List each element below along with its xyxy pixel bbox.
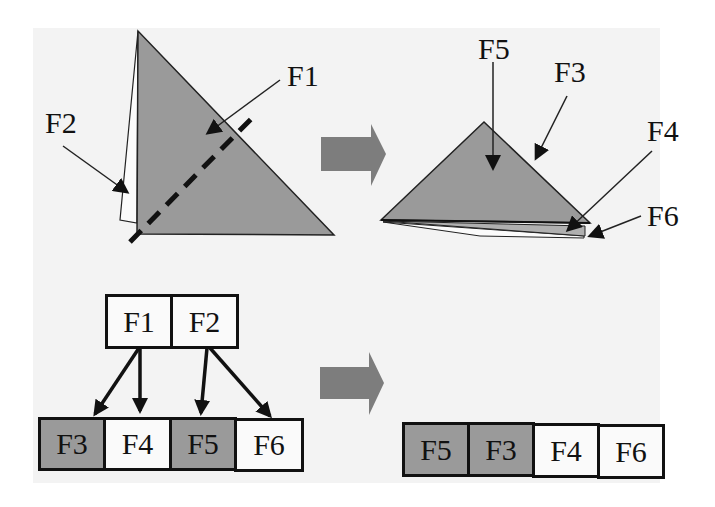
label-f2: F2 [45,108,77,138]
pointer-arrow-f3 [536,96,567,158]
label-f4-top: F4 [647,116,679,146]
transition-arrow-bottom [320,352,384,415]
stack-cell-f6: F6 [597,424,665,479]
folded-result-shape [381,122,590,238]
pointer-arrow-f4 [568,151,652,230]
stack-cell-f4: F4 [532,423,600,478]
transition-arrow-top [321,124,386,186]
flap-f2 [120,31,138,223]
tree-child-f4: F4 [103,417,172,471]
tree-parent-f1: F1 [105,294,173,349]
label-f6-top: F6 [647,201,679,231]
label-f1: F1 [287,61,319,91]
label-f5-top: F5 [478,34,510,64]
pointer-arrow-f6 [590,216,641,236]
tree-arrows [95,348,270,416]
stack-cell-f3: F3 [467,422,535,477]
pointer-arrow-f2 [63,146,127,192]
tree-child-f3: F3 [38,417,106,471]
tree-parent-f2: F2 [170,294,239,349]
label-f3-top: F3 [554,57,586,87]
tree-child-f6: F6 [234,418,304,472]
stack-cell-f5: F5 [402,422,470,477]
tree-child-f5: F5 [169,417,237,471]
